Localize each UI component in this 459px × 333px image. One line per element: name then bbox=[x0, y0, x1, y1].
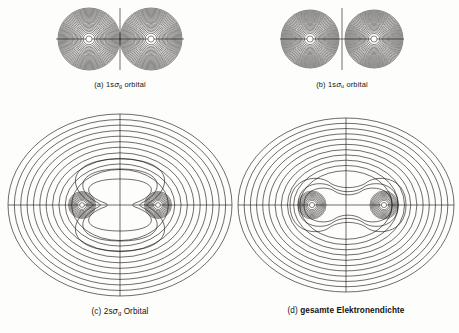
panel-b-1s-sigma-u: (b) 1sσu orbital bbox=[240, 6, 444, 72]
caption-d-text: gesamte Elektronendichte bbox=[300, 306, 404, 315]
panel-a-1s-sigma-g: (a) 1sσg orbital bbox=[18, 6, 222, 72]
nucleus-left-b bbox=[307, 36, 313, 42]
caption-panel-c: (c) 2sσg Orbital bbox=[6, 306, 234, 316]
nucleus-left-c bbox=[80, 203, 85, 208]
nucleus-left-a bbox=[86, 36, 92, 42]
caption-c-suffix: Orbital bbox=[121, 307, 148, 316]
figure-page: (a) 1sσg orbital (b) 1sσu orbital (c) 2s… bbox=[0, 0, 459, 333]
nucleus-left-d bbox=[309, 202, 314, 207]
contour-plot-c bbox=[6, 110, 234, 300]
caption-d-prefix: (d) bbox=[287, 306, 300, 315]
caption-b-suffix: orbital bbox=[344, 80, 368, 89]
nucleus-right-a bbox=[148, 36, 154, 42]
nucleus-right-b bbox=[371, 36, 377, 42]
contour-plot-b bbox=[240, 6, 444, 72]
nucleus-right-d bbox=[381, 202, 386, 207]
caption-panel-a: (a) 1sσg orbital bbox=[18, 80, 222, 89]
panel-c-2s-sigma-g: (c) 2sσg Orbital bbox=[6, 110, 234, 300]
caption-a-prefix: (a) 1s bbox=[94, 80, 114, 89]
panel-d-total-density: (d) gesamte Elektronendichte bbox=[236, 110, 456, 300]
contour-plot-d bbox=[236, 110, 456, 300]
contour-plot-a bbox=[18, 6, 222, 72]
caption-a-suffix: orbital bbox=[122, 80, 146, 89]
caption-panel-d: (d) gesamte Elektronendichte bbox=[236, 306, 456, 315]
caption-b-prefix: (b) 1s bbox=[316, 80, 336, 89]
caption-c-prefix: (c) 2s bbox=[92, 307, 113, 316]
nucleus-right-c bbox=[156, 203, 161, 208]
caption-panel-b: (b) 1sσu orbital bbox=[240, 80, 444, 89]
